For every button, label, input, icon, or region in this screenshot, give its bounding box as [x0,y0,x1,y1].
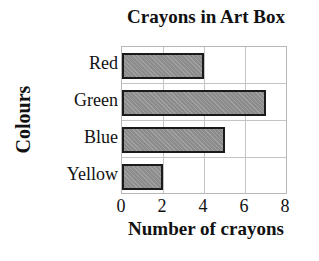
category-label-green: Green [74,90,118,111]
category-label-yellow: Yellow [67,164,118,185]
bar-blue [122,127,225,153]
x-tick-8: 8 [275,196,295,217]
chart-title: Crayons in Art Box [106,6,306,28]
bar-red [122,53,204,79]
x-tick-6: 6 [234,196,254,217]
y-axis-label: Colours [12,75,35,165]
gridline-y-3 [122,157,286,158]
gridline-y-2 [122,120,286,121]
x-tick-4: 4 [193,196,213,217]
gridline-y-1 [122,83,286,84]
x-tick-0: 0 [111,196,131,217]
plot-area [121,46,287,194]
bar-green [122,90,266,116]
x-axis-label: Number of crayons [106,218,306,240]
bar-yellow [122,164,163,190]
category-label-red: Red [89,53,118,74]
category-label-blue: Blue [84,127,118,148]
x-tick-2: 2 [152,196,172,217]
